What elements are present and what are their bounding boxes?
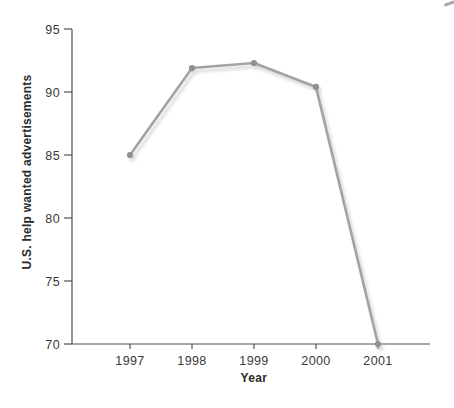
data-point: [251, 60, 257, 66]
x-tick-label: 1998: [177, 354, 206, 368]
chart-figure: 70758085909519971998199920002001 U.S. he…: [0, 0, 454, 408]
data-point: [127, 152, 133, 158]
x-tick-label: 2001: [363, 354, 392, 368]
y-axis-title: U.S. help wanted advertisements: [19, 52, 35, 292]
y-tick-label: 75: [45, 275, 60, 289]
y-tick-label: 90: [45, 86, 60, 100]
y-tick-label: 80: [45, 212, 60, 226]
x-tick-label: 1997: [115, 354, 144, 368]
data-point: [375, 341, 381, 347]
y-tick-label: 70: [45, 338, 60, 352]
y-tick-label: 85: [45, 149, 60, 163]
data-point: [313, 84, 319, 90]
line-chart: 70758085909519971998199920002001: [0, 0, 454, 408]
data-point: [189, 65, 195, 71]
y-tick-label: 95: [45, 23, 60, 37]
data-line: [130, 63, 378, 344]
x-tick-label: 1999: [239, 354, 268, 368]
x-axis-title: Year: [214, 371, 294, 386]
x-tick-label: 2000: [301, 354, 330, 368]
